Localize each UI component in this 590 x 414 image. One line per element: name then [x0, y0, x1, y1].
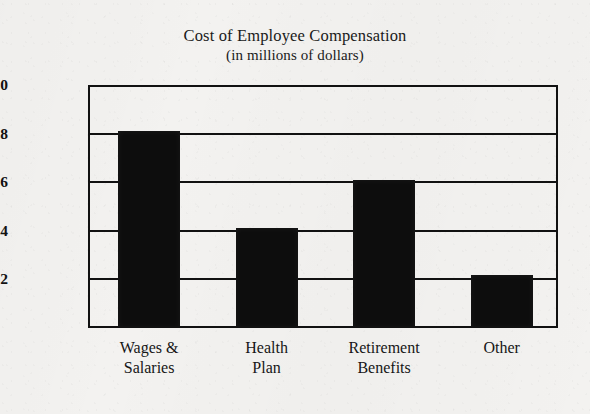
- bar-chart-figure: Cost of Employee Compensation (in millio…: [0, 0, 590, 414]
- plot-frame: [88, 85, 558, 328]
- x-axis-category-label: Wages & Salaries: [120, 338, 179, 379]
- y-axis-tick-label: $1.0: [0, 76, 8, 94]
- chart-subtitle: (in millions of dollars): [0, 46, 590, 64]
- x-axis-category-label: Health Plan: [245, 338, 288, 379]
- plot-area: [88, 85, 558, 328]
- y-axis-tick-label: $0.6: [0, 173, 8, 191]
- x-axis-category-label: Other: [483, 338, 519, 358]
- y-axis-tick-label: $0.2: [0, 270, 8, 288]
- chart-title: Cost of Employee Compensation: [0, 26, 590, 46]
- x-axis-category-label: Retirement Benefits: [349, 338, 420, 379]
- chart-title-block: Cost of Employee Compensation (in millio…: [0, 26, 590, 64]
- y-axis-tick-label: $0.8: [0, 125, 8, 143]
- y-axis-tick-label: $0.4: [0, 222, 8, 240]
